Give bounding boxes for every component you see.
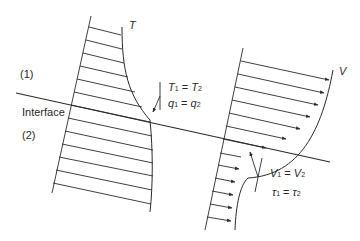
temperature-equality-condition: T1 = T2 <box>168 82 202 93</box>
t2-symbol: T <box>191 82 198 93</box>
q2-subscript: 2 <box>197 101 201 108</box>
velocity-profile <box>205 48 333 230</box>
velocity-curve <box>235 70 333 230</box>
equals-sign: = <box>280 187 293 198</box>
temperature-wall <box>52 16 91 193</box>
temperature-curve-label: T <box>129 20 136 31</box>
tau2-subscript: 2 <box>297 190 301 197</box>
velocity-condition-pointer <box>250 152 262 192</box>
t1-symbol: T <box>168 82 175 93</box>
temperature-condition-pointer <box>153 82 160 112</box>
interface-diagram: (1) Interface (2) T V T1 = T2 q1 = q2 V1… <box>0 0 360 241</box>
region-2-label: (2) <box>22 130 35 141</box>
shear-stress-equality-condition: τ1 = τ2 <box>272 187 301 198</box>
t2-subscript: 2 <box>198 85 202 92</box>
equals-sign: = <box>281 168 294 179</box>
velocity-equality-condition: V1 = V2 <box>270 168 305 179</box>
v2-symbol: V <box>294 168 301 179</box>
region-1-label: (1) <box>20 69 33 80</box>
interface-label: Interface <box>22 107 65 118</box>
diagram-graphics <box>0 0 360 241</box>
v1-symbol: V <box>270 168 277 179</box>
v2-subscript: 2 <box>301 171 305 178</box>
heat-flux-equality-condition: q1 = q2 <box>168 98 201 109</box>
velocity-curve-label: V <box>339 66 346 77</box>
equals-sign: = <box>178 98 191 109</box>
temperature-profile <box>52 16 153 212</box>
equals-sign: = <box>179 82 192 93</box>
